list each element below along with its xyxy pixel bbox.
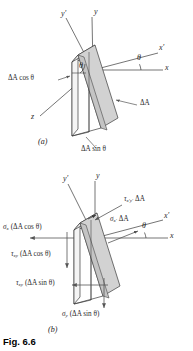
tau-xy-cos-force-label: τxy(ΔA cos θ): [11, 251, 51, 259]
panel-b-y-prime-axis-label: y′: [63, 175, 68, 183]
sigma-subscript: x: [7, 226, 9, 231]
panel-b-label: (b): [48, 325, 57, 334]
tau-expression: (ΔA sin θ): [25, 279, 55, 287]
panel-b-y-axis-label: y: [96, 172, 100, 180]
tau-subscript: xy: [19, 282, 23, 287]
tau-subscript: x′y′: [127, 198, 133, 203]
panel-b-x-prime-axis-label: x′: [164, 212, 169, 220]
tau-expression: (ΔA cos θ): [20, 250, 51, 258]
tau-xprime-yprime-force-label: τx′y′ΔA: [124, 196, 145, 204]
sigma-expression: (ΔA cos θ): [11, 223, 42, 231]
sigma-expression: ΔA: [119, 215, 129, 223]
sigma-expression: (ΔA sin θ): [70, 310, 100, 318]
figure-caption: Fig. 6.6: [3, 336, 36, 347]
sigma-xprime-force-label: σx′ΔA: [110, 216, 129, 224]
tau-xy-sin-force-label: τxy(ΔA sin θ): [16, 280, 55, 288]
tau-expression: ΔA: [135, 195, 145, 203]
sigma-subscript: y: [66, 313, 68, 318]
tau-subscript: xy: [14, 253, 18, 258]
sigma-x-force-label: σx(ΔA cos θ): [3, 224, 42, 232]
figure-6-6: y′ y x′ x z θ θ ΔA cos θ ΔA ΔA sin θ (a): [0, 0, 193, 351]
sigma-subscript: x′: [114, 218, 117, 223]
panel-b-theta-x-axis-label: θ: [142, 222, 146, 230]
panel-b-x-axis-label: x: [170, 232, 174, 240]
sigma-y-force-label: σy(ΔA sin θ): [62, 311, 99, 319]
